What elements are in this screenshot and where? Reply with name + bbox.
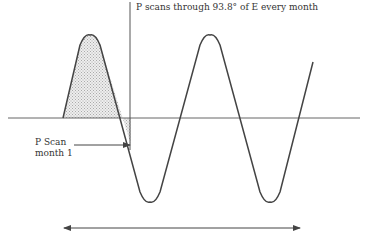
top-annotation: P scans through 93.8° of E every month bbox=[136, 2, 318, 13]
scan-label-line2: month 1 bbox=[35, 148, 73, 159]
oscillation-diagram bbox=[0, 0, 368, 232]
scan-label-line1: P Scan bbox=[35, 137, 66, 148]
shaded-scan-region bbox=[63, 35, 131, 145]
